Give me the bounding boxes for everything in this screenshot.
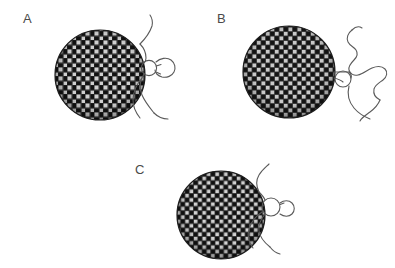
panel-c	[176, 164, 294, 260]
panel-b	[242, 25, 387, 121]
figure-canvas	[0, 0, 395, 268]
panel-a	[54, 15, 175, 121]
figure-container: A B C	[0, 0, 395, 268]
disc-a	[54, 29, 146, 121]
panel-label-a: A	[23, 12, 32, 25]
panel-label-b: B	[217, 12, 226, 25]
disc-b	[242, 25, 336, 119]
panel-label-c: C	[135, 163, 145, 176]
filament-b	[334, 27, 387, 121]
